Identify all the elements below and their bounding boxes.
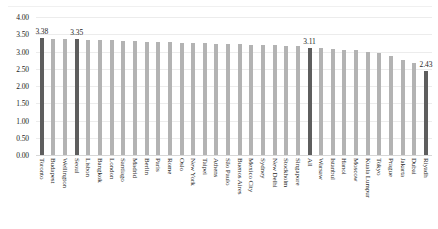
x-axis-tick: Bangkok	[94, 157, 106, 227]
x-axis-tick: Warsaw	[315, 157, 327, 227]
bar-chart: 0.000.501.001.502.002.503.003.504.00 3.3…	[0, 0, 438, 229]
bar	[342, 50, 346, 155]
x-axis-tick-label: Berlin	[143, 158, 151, 175]
x-axis-tick: Stockholm	[280, 157, 292, 227]
x-axis-tick-label: Paris	[154, 158, 162, 172]
x-axis-tick-label: Lisbon	[84, 158, 92, 177]
bar-slot	[327, 17, 339, 155]
x-axis-tick-label: Singapore	[294, 158, 302, 185]
x-axis-tick-label: Seoul	[73, 158, 81, 173]
bar-slot: 3.11	[304, 17, 316, 155]
x-axis-tick: Lisbon	[83, 157, 95, 227]
bar-slot	[187, 17, 199, 155]
x-axis-tick-label: Rome	[166, 158, 174, 174]
bar-slot	[385, 17, 397, 155]
bar	[75, 39, 79, 155]
x-axis-tick-label: Dubai	[410, 158, 418, 175]
bar	[191, 43, 195, 155]
x-axis-tick: Prague	[385, 157, 397, 227]
x-axis: TorontoBudapestWellingtonSeoulLisbonBang…	[36, 157, 432, 227]
x-axis-tick: Jakarta	[397, 157, 409, 227]
x-axis-tick-label: All	[306, 158, 314, 167]
bar-slot	[211, 17, 223, 155]
x-axis-tick: Riyadh	[420, 157, 432, 227]
x-axis-tick: Madrid	[129, 157, 141, 227]
x-axis-tick: São Paulo	[222, 157, 234, 227]
x-axis-tick-label: Stockholm	[282, 158, 290, 187]
x-axis-tick: Sydney	[257, 157, 269, 227]
bar-slot	[48, 17, 60, 155]
bar-value-label: 3.11	[303, 37, 315, 46]
bar	[319, 48, 323, 155]
y-axis-tick-label: 3.50	[16, 30, 29, 39]
x-axis-tick: Toronto	[36, 157, 48, 227]
y-axis-tick-label: 2.50	[16, 64, 29, 73]
x-axis-tick-label: Wellington	[61, 158, 69, 188]
y-axis-tick-label: 1.00	[16, 116, 29, 125]
x-axis-tick: Singapore	[292, 157, 304, 227]
bar	[63, 39, 67, 155]
bar-value-label: 3.38	[35, 27, 48, 36]
plot-area: 3.383.353.112.43	[36, 17, 432, 155]
bar-slot	[83, 17, 95, 155]
x-axis-tick: London	[106, 157, 118, 227]
bar-slot	[397, 17, 409, 155]
x-axis-tick-label: Mexico City	[247, 158, 255, 192]
x-axis-tick-label: Bangkok	[96, 158, 104, 183]
bar-slot	[315, 17, 327, 155]
x-axis-tick-label: Riyadh	[422, 158, 430, 178]
x-axis-tick-label: Buenos Aires	[236, 158, 244, 194]
y-axis-tick-label: 2.00	[16, 82, 29, 91]
bar-slot	[234, 17, 246, 155]
x-axis-tick: Paris	[152, 157, 164, 227]
x-axis-tick: Rome	[164, 157, 176, 227]
bar	[389, 56, 393, 155]
x-axis-tick: Moscow	[350, 157, 362, 227]
x-axis-tick-label: Prague	[387, 158, 395, 177]
y-axis-tick-label: 1.50	[16, 99, 29, 108]
bar-slot	[176, 17, 188, 155]
x-axis-tick: Taipei	[199, 157, 211, 227]
bar-slot: 3.35	[71, 17, 83, 155]
x-axis-tick-label: London	[108, 158, 116, 179]
bar	[110, 40, 114, 155]
bar	[331, 49, 335, 155]
x-axis-tick-label: Toronto	[38, 158, 46, 179]
x-axis-tick: Oslo	[176, 157, 188, 227]
bar	[273, 45, 277, 155]
x-axis-tick-label: Santiago	[119, 158, 127, 182]
x-axis-tick-label: Moscow	[352, 158, 360, 182]
x-axis-tick: Mexico City	[246, 157, 258, 227]
bar-slot	[164, 17, 176, 155]
bar	[366, 52, 370, 156]
x-axis-tick: Seoul	[71, 157, 83, 227]
bar	[180, 43, 184, 155]
bar	[40, 38, 44, 155]
bar	[121, 41, 125, 155]
x-axis-tick: All	[304, 157, 316, 227]
axis-baseline	[36, 155, 432, 156]
x-axis-tick-label: Hanoi	[340, 158, 348, 175]
x-axis-tick-label: New Delhi	[271, 158, 279, 188]
bar-slot	[257, 17, 269, 155]
x-axis-tick-label: Sydney	[259, 158, 267, 178]
x-axis-tick: Istanbul	[327, 157, 339, 227]
x-axis-tick: Athens	[211, 157, 223, 227]
bar	[203, 43, 207, 155]
bar	[424, 71, 428, 155]
x-axis-tick: New York	[187, 157, 199, 227]
bar	[249, 45, 253, 155]
bar-slot: 3.38	[36, 17, 48, 155]
bar	[156, 42, 160, 155]
x-axis-tick-label: Budapest	[49, 158, 57, 183]
x-axis-tick-label: Madrid	[131, 158, 139, 178]
x-axis-tick-label: Oslo	[178, 158, 186, 171]
x-axis-tick: New Delhi	[269, 157, 281, 227]
x-axis-tick-label: Tokyo	[375, 158, 383, 175]
bar	[238, 44, 242, 155]
bar-slot	[59, 17, 71, 155]
bar	[412, 63, 416, 155]
top-rule-divider	[8, 6, 432, 7]
bar	[168, 42, 172, 155]
bar	[296, 46, 300, 155]
